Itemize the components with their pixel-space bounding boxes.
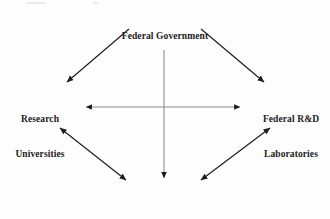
node-research-universities: Research Universities bbox=[2, 91, 78, 183]
node-industrial-firms: Industrial Firms bbox=[0, 200, 330, 219]
node-label-line: Laboratories bbox=[252, 149, 330, 161]
node-federal-government: Federal Government bbox=[0, 8, 330, 66]
diagram-canvas: Federal Government Research Universities… bbox=[0, 0, 330, 219]
node-label-line: Research bbox=[2, 114, 78, 126]
node-label-line: Federal R&D bbox=[252, 114, 330, 126]
node-label-line: Federal Government bbox=[0, 31, 330, 43]
node-label-line: Universities bbox=[2, 149, 78, 161]
node-federal-rd-laboratories: Federal R&D Laboratories bbox=[252, 91, 330, 183]
